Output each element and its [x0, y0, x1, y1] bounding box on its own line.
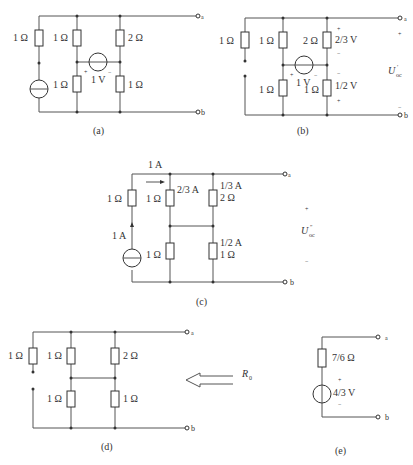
- resistor-right-top: [323, 32, 331, 48]
- resistor-left: [29, 348, 37, 364]
- resistor-mid-bot: [166, 243, 174, 259]
- caption-b: (b): [297, 125, 309, 137]
- svg-text:1 Ω: 1 Ω: [107, 193, 122, 204]
- label-r0: R: [241, 368, 248, 379]
- label-uoc: U: [388, 65, 396, 76]
- svg-text:1 Ω: 1 Ω: [8, 350, 23, 361]
- svg-text:a: a: [385, 335, 388, 341]
- hollow-arrow-icon: [186, 373, 233, 387]
- svg-text:2 Ω: 2 Ω: [303, 35, 318, 46]
- caption-a: (a): [93, 125, 104, 137]
- svg-text:1 Ω: 1 Ω: [259, 84, 274, 95]
- label-vsource: 1 V: [91, 74, 106, 85]
- figure-b: 1 Ω 1 Ω 1 Ω 2 Ω 1 Ω + − 1 V + 2/3 V − − …: [219, 16, 408, 137]
- label-r-mid-bot: 1 Ω: [53, 79, 68, 90]
- figure-e: 7/6 Ω + 4/3 V − a b (e): [313, 335, 389, 457]
- svg-text:a: a: [404, 16, 407, 22]
- svg-text:−: −: [337, 50, 341, 56]
- svg-text:−: −: [337, 70, 341, 76]
- resistor-right-top: [209, 190, 217, 206]
- svg-text:1 Ω: 1 Ω: [47, 350, 62, 361]
- resistor-right-bot: [116, 76, 124, 92]
- resistor-series: [318, 349, 326, 367]
- label-vsource: 4/3 V: [333, 387, 356, 398]
- svg-text:1 A: 1 A: [112, 230, 127, 241]
- svg-text:1 Ω: 1 Ω: [259, 35, 274, 46]
- terminal-a: [398, 16, 402, 20]
- resistor-right-bot: [323, 80, 331, 96]
- svg-text:−: −: [338, 401, 342, 407]
- svg-text:1 Ω: 1 Ω: [47, 393, 62, 404]
- svg-text:2 Ω: 2 Ω: [220, 192, 235, 203]
- svg-text:1 Ω: 1 Ω: [146, 249, 161, 260]
- circuit-figures: 1 Ω 1 Ω 1 Ω 2 Ω 1 Ω + − 1 V a b (a): [0, 0, 413, 465]
- label-r-right-top: 2 Ω: [128, 32, 143, 43]
- label-r-right-bot: 1 Ω: [128, 79, 143, 90]
- figure-a: 1 Ω 1 Ω 1 Ω 2 Ω 1 Ω + − 1 V a b (a): [13, 14, 205, 137]
- svg-text:+: +: [398, 31, 402, 37]
- svg-text:1 A: 1 A: [148, 159, 163, 170]
- svg-text:a: a: [201, 14, 204, 20]
- terminal-a: [185, 330, 189, 334]
- current-arrow-icon: [130, 222, 134, 227]
- terminal-a: [283, 172, 287, 176]
- resistor-mid-top: [279, 32, 287, 48]
- svg-text:2/3 V: 2/3 V: [335, 34, 358, 45]
- svg-text:1/2 V: 1/2 V: [335, 80, 358, 91]
- svg-text:0: 0: [249, 375, 252, 381]
- svg-text:+: +: [305, 206, 309, 212]
- svg-text:b: b: [201, 108, 205, 117]
- svg-text:−: −: [314, 72, 318, 78]
- resistor-left: [35, 30, 43, 46]
- svg-text:2 Ω: 2 Ω: [123, 350, 138, 361]
- resistor-mid-bot: [67, 391, 75, 407]
- resistor-right-bot: [111, 391, 119, 407]
- terminal-b: [185, 426, 189, 430]
- label-r-series: 7/6 Ω: [332, 352, 355, 363]
- figure-c: 1 A 1 Ω 1 Ω 2/3 A 1/3 A 2 Ω 1 A 1 Ω 1/2 …: [107, 159, 315, 308]
- resistor-mid-bot: [73, 76, 81, 92]
- svg-text:b: b: [191, 424, 195, 433]
- svg-text:″: ″: [310, 224, 313, 230]
- svg-text:a: a: [288, 172, 291, 178]
- label-r-mid-top: 1 Ω: [53, 32, 68, 43]
- svg-text:−: −: [398, 104, 402, 110]
- svg-text:+: +: [84, 69, 88, 75]
- svg-text:′: ′: [397, 64, 399, 70]
- svg-text:oc: oc: [396, 72, 402, 78]
- svg-text:1/3 A: 1/3 A: [220, 180, 243, 191]
- resistor-right-top: [111, 348, 119, 364]
- svg-text:b: b: [290, 278, 294, 287]
- svg-text:oc: oc: [309, 232, 315, 238]
- label-r-left: 1 Ω: [13, 32, 28, 43]
- resistor-right-top: [116, 30, 124, 46]
- svg-text:+: +: [337, 98, 341, 104]
- svg-text:1 Ω: 1 Ω: [123, 393, 138, 404]
- terminal-a: [376, 335, 380, 339]
- resistor-mid-top: [73, 30, 81, 46]
- caption-c: (c): [196, 296, 207, 308]
- svg-text:−: −: [305, 258, 309, 264]
- terminal-b: [196, 110, 200, 114]
- terminal-a: [196, 14, 200, 18]
- resistor-right-bot: [209, 243, 217, 259]
- terminal-b: [376, 415, 380, 419]
- terminal-b: [398, 113, 402, 117]
- svg-text:1 V: 1 V: [296, 77, 311, 88]
- svg-text:1 Ω: 1 Ω: [220, 249, 235, 260]
- svg-text:−: −: [108, 69, 112, 75]
- svg-text:1 Ω: 1 Ω: [219, 35, 234, 46]
- figure-d: 1 Ω 1 Ω 1 Ω 2 Ω 1 Ω a b R 0 (d): [8, 330, 252, 453]
- resistor-left: [128, 190, 136, 206]
- resistor-mid-top: [67, 348, 75, 364]
- caption-e: (e): [335, 445, 346, 457]
- resistor-mid-bot: [279, 80, 287, 96]
- current-arrow-icon: [160, 180, 165, 184]
- svg-text:1/2 A: 1/2 A: [220, 237, 243, 248]
- label-uoc: U: [301, 225, 309, 236]
- caption-d: (d): [101, 441, 113, 453]
- svg-text:+: +: [338, 377, 342, 383]
- resistor-mid-top: [166, 190, 174, 206]
- svg-text:+: +: [290, 72, 294, 78]
- resistor-left: [241, 32, 249, 48]
